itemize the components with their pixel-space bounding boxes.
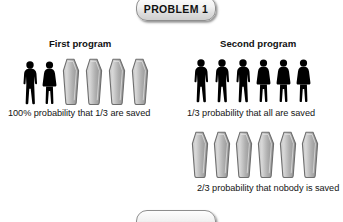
- woman-silhouette-icon: [276, 58, 291, 103]
- coffin-icon: [61, 58, 80, 105]
- coffin-icon: [300, 131, 319, 178]
- second-program-outcome-b-caption: 2/3 probability that nobody is saved: [197, 183, 339, 193]
- coffin-icon: [190, 131, 209, 178]
- man-silhouette-icon: [214, 58, 230, 103]
- second-program-heading: Second program: [220, 38, 296, 49]
- coffin-icon: [130, 58, 149, 105]
- coffin-icon: [234, 131, 253, 178]
- second-program-coffins-row: [190, 131, 319, 178]
- problem-badge-top: PROBLEM 1: [136, 0, 216, 21]
- coffin-icon: [256, 131, 275, 178]
- first-program-figure-row: [22, 58, 149, 105]
- man-silhouette-icon: [193, 58, 209, 103]
- second-program-survivors-row: [193, 58, 311, 103]
- coffin-icon: [278, 131, 297, 178]
- woman-silhouette-icon: [42, 60, 57, 105]
- second-program-outcome-a-caption: 1/3 probability that all are saved: [187, 108, 315, 118]
- first-program-heading: First program: [49, 38, 111, 49]
- problem-badge-top-label: PROBLEM 1: [144, 3, 208, 15]
- first-program-caption: 100% probability that 1/3 are saved: [8, 108, 150, 118]
- woman-silhouette-icon: [256, 58, 271, 103]
- problem-badge-bottom: [136, 210, 216, 222]
- diagram-canvas: PROBLEM 1 First program Second program 1…: [0, 0, 343, 222]
- coffin-icon: [212, 131, 231, 178]
- coffin-icon: [84, 58, 103, 105]
- man-silhouette-icon: [22, 60, 38, 105]
- woman-silhouette-icon: [296, 58, 311, 103]
- coffin-icon: [107, 58, 126, 105]
- man-silhouette-icon: [235, 58, 251, 103]
